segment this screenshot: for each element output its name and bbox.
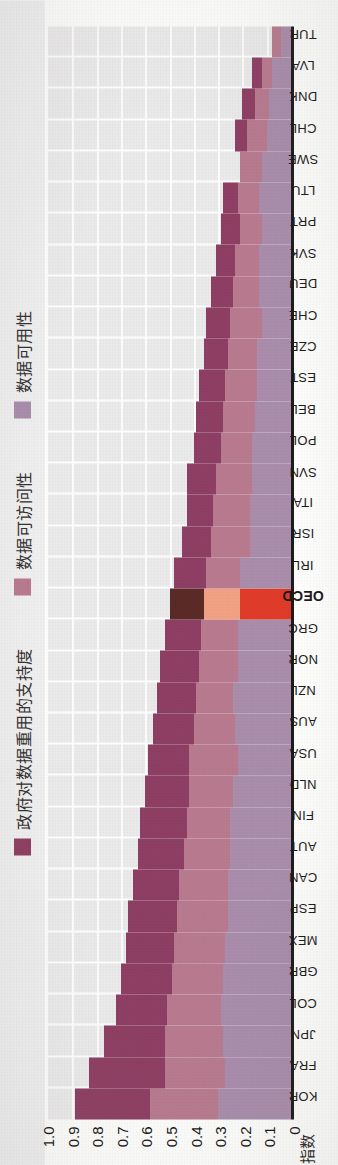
bar-segment-access <box>184 838 230 869</box>
x-axis-tick-oecd: OECD <box>297 588 338 619</box>
x-axis-tick-grc: GRC <box>297 619 338 650</box>
bar-segment-avail <box>233 775 291 806</box>
x-axis-tick-lva: LVA <box>297 57 338 88</box>
bar-che <box>48 307 291 338</box>
x-axis-tick-label: FRA <box>290 1057 317 1072</box>
bar-series-container <box>48 26 291 1119</box>
x-axis-tick-label: TUR <box>289 26 317 41</box>
x-axis-tick-prt: PRT <box>297 213 338 244</box>
x-axis-tick-label: NLD <box>290 776 317 791</box>
bar-segment-avail <box>221 994 291 1025</box>
bar-segment-avail <box>223 963 291 994</box>
bar-segment-support <box>165 619 201 650</box>
bar-deu <box>48 276 291 307</box>
y-axis-title: 指数 <box>296 1133 317 1163</box>
bar-fin <box>48 807 291 838</box>
bar-segment-support <box>211 276 233 307</box>
bar-segment-access <box>165 1057 226 1088</box>
bar-segment-support <box>126 932 175 963</box>
bar-segment-access <box>240 151 262 182</box>
bar-segment-support <box>170 588 204 619</box>
bar-segment-support <box>153 713 194 744</box>
bar-segment-avail <box>257 369 291 400</box>
bar-segment-avail <box>225 1057 291 1088</box>
bar-segment-support <box>206 307 230 338</box>
bar-segment-access <box>233 276 260 307</box>
bar-segment-avail <box>218 1088 291 1119</box>
bar-segment-access <box>223 401 255 432</box>
x-axis-tick-bel: BEL <box>297 401 338 432</box>
x-axis-tick-irl: IRL <box>297 557 338 588</box>
bar-segment-access <box>199 650 238 681</box>
bar-segment-access <box>262 57 272 88</box>
x-axis-tick-label: BEL <box>290 401 315 416</box>
x-axis-tick-label: EST <box>290 370 316 385</box>
bar-aut <box>48 838 291 869</box>
bar-segment-avail <box>262 307 291 338</box>
bar-segment-access <box>165 1025 223 1056</box>
x-axis-tick-fin: FIN <box>297 807 338 838</box>
bar-segment-support <box>223 182 238 213</box>
x-axis-tick-label: CHE <box>289 308 317 323</box>
bar-segment-access <box>230 307 262 338</box>
bar-segment-support <box>242 88 254 119</box>
x-axis-tick-label: ISR <box>292 526 315 541</box>
bar-segment-avail <box>272 57 291 88</box>
bar-aus <box>48 713 291 744</box>
bar-segment-support <box>160 650 199 681</box>
bar-segment-access <box>238 182 260 213</box>
x-axis-tick-label: LVA <box>291 58 315 73</box>
bar-segment-support <box>199 369 226 400</box>
x-axis-tick-nor: NOR <box>297 650 338 681</box>
bar-segment-access <box>194 713 235 744</box>
legend-swatch-access <box>14 579 31 596</box>
y-axis-tick: 0.2 <box>236 1126 253 1147</box>
x-axis-tick-label: GBR <box>288 963 317 978</box>
scanned-page: 政府对数据重用的支持度数据可访问性数据可用性 1.00.90.80.70.60.… <box>0 0 338 1165</box>
bar-segment-support <box>182 526 211 557</box>
bar-pol <box>48 432 291 463</box>
x-axis-tick-nld: NLD <box>297 775 338 806</box>
x-axis-tick-esp: ESP <box>297 900 338 931</box>
y-axis-tick: 0.3 <box>212 1126 229 1147</box>
bar-segment-access <box>187 807 231 838</box>
bar-segment-support <box>89 1057 164 1088</box>
bar-segment-access <box>196 682 232 713</box>
bar-segment-support <box>133 869 179 900</box>
bar-svk <box>48 244 291 275</box>
x-axis-tick-nzl: NZL <box>297 682 338 713</box>
bar-segment-access <box>247 120 266 151</box>
x-axis-tick-pol: POL <box>297 432 338 463</box>
bar-isr <box>48 526 291 557</box>
bar-segment-access <box>235 244 259 275</box>
x-axis-tick-gbr: GBR <box>297 963 338 994</box>
y-axis: 1.00.90.80.70.60.50.40.30.20.10 <box>48 1121 294 1165</box>
bar-segment-access <box>216 463 252 494</box>
x-axis-tick-label: GRC <box>288 620 318 635</box>
legend-item-access: 数据可访问性 <box>11 471 35 596</box>
y-axis-tick: 0.1 <box>261 1126 278 1147</box>
bar-segment-access <box>272 26 282 57</box>
bar-segment-avail <box>233 682 291 713</box>
x-axis-tick-col: COL <box>297 994 338 1025</box>
bar-segment-access <box>211 526 250 557</box>
bar-segment-access <box>240 213 262 244</box>
x-axis-tick-label: ITA <box>293 495 313 510</box>
bar-segment-access <box>174 932 225 963</box>
x-axis-tick-label: LTU <box>291 183 316 198</box>
bar-ita <box>48 494 291 525</box>
y-axis-tick: 0.5 <box>163 1126 180 1147</box>
bar-segment-avail <box>238 650 291 681</box>
x-axis-tick-label: FIN <box>292 807 314 822</box>
bar-segment-support <box>148 744 189 775</box>
bar-est <box>48 369 291 400</box>
bar-tur <box>48 26 291 57</box>
bar-dnk <box>48 88 291 119</box>
x-axis-tick-isr: ISR <box>297 526 338 557</box>
bar-segment-avail <box>259 244 291 275</box>
bar-segment-support <box>157 682 196 713</box>
bar-can <box>48 869 291 900</box>
bar-segment-avail <box>238 744 291 775</box>
bar-segment-avail <box>257 338 291 369</box>
bar-irl <box>48 557 291 588</box>
